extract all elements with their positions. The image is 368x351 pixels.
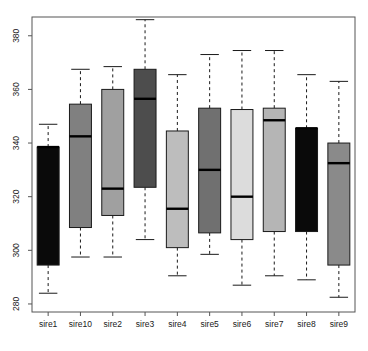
y-tick-label: 300 bbox=[11, 243, 21, 257]
x-tick-label-sire6: sire6 bbox=[233, 319, 252, 329]
x-tick-label-sire7: sire7 bbox=[265, 319, 284, 329]
y-tick-label: 320 bbox=[11, 189, 21, 203]
x-tick-label-sire1: sire1 bbox=[39, 319, 58, 329]
box-body bbox=[328, 143, 350, 265]
y-tick-label: 360 bbox=[11, 82, 21, 96]
box-body bbox=[134, 69, 156, 187]
x-tick-label-sire5: sire5 bbox=[200, 319, 219, 329]
y-tick-label: 340 bbox=[11, 136, 21, 150]
boxplot-figure: 280300320340360380 sire1sire10sire2sire3… bbox=[0, 0, 368, 351]
y-tick-label: 280 bbox=[11, 297, 21, 311]
x-tick-label-sire10: sire10 bbox=[69, 319, 92, 329]
x-tick-label-sire3: sire3 bbox=[136, 319, 155, 329]
x-tick-label-sire8: sire8 bbox=[297, 319, 316, 329]
box-body bbox=[231, 110, 253, 240]
x-tick-label-sire9: sire9 bbox=[330, 319, 349, 329]
boxplot-canvas: 280300320340360380 sire1sire10sire2sire3… bbox=[0, 0, 368, 351]
box-body bbox=[166, 131, 188, 248]
box-body bbox=[37, 147, 59, 265]
x-tick-label-sire2: sire2 bbox=[104, 319, 123, 329]
box-body bbox=[263, 108, 285, 231]
box-body bbox=[102, 89, 124, 215]
y-tick-label: 380 bbox=[11, 28, 21, 42]
box-body bbox=[69, 104, 91, 227]
box-body bbox=[296, 128, 318, 231]
x-tick-label-sire4: sire4 bbox=[168, 319, 187, 329]
